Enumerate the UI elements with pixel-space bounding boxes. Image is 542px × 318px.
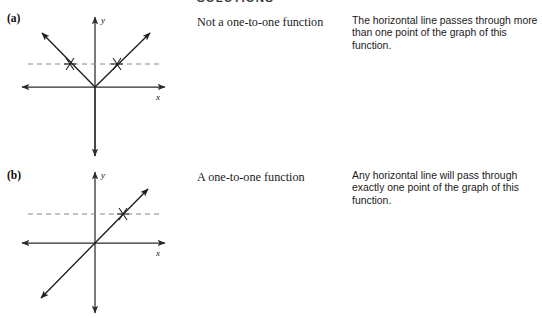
y-axis-label-b: y [100,170,105,180]
figure-linear-graph: y x [0,163,190,313]
caption-not-one-to-one: Not a one-to-one function [197,15,323,29]
x-axis-label-b: x [155,248,160,258]
caption-one-to-one: A one-to-one function [197,170,305,184]
x-axis-label-a: x [155,92,160,102]
curve-right-branch-a [95,33,150,87]
description-not-one-to-one: The horizontal line passes through more … [352,15,542,52]
solutions-heading: SOLUTIONS [197,0,274,4]
curve-lower-branch-b [41,243,95,298]
y-axis-label-a: y [100,15,105,25]
figure-absolute-value-graph: y x [0,8,190,158]
curve-left-branch-a [42,33,95,87]
intersection-marker-left-a [64,58,76,70]
intersection-marker-right-a [111,58,123,70]
graph-a-svg: y x [0,8,190,158]
graph-b-svg: y x [0,163,190,315]
description-one-to-one: Any horizontal line will pass through ex… [352,170,542,207]
